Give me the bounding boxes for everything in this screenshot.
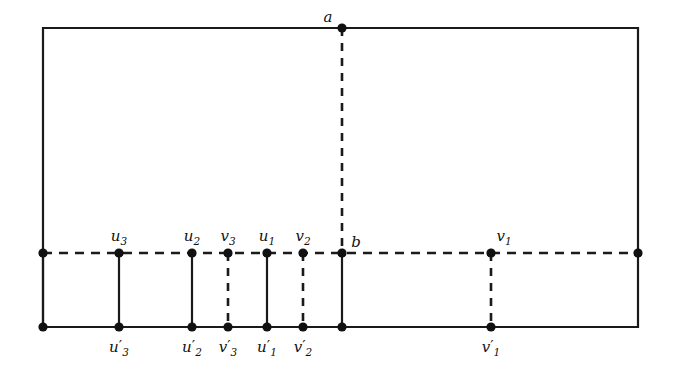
diagram-canvas: abu3u2v3u1v2v1u′3u′2v′3u′1v′2v′1 — [0, 0, 674, 375]
label-base: u — [182, 338, 192, 356]
vertex-label-u1p: u′1 — [257, 337, 277, 358]
vertex-labels-group: abu3u2v3u1v2v1u′3u′2v′3u′1v′2v′1 — [109, 8, 511, 358]
vertex-dot-b — [337, 248, 346, 257]
vertex-dot-v1p — [486, 322, 495, 331]
vertex-label-u3p: u′3 — [109, 337, 129, 358]
vertex-label-v1: v1 — [496, 227, 511, 247]
label-base: u — [109, 338, 119, 356]
label-subscript: 2 — [303, 235, 311, 247]
vertex-dot-left-mid — [38, 248, 47, 257]
vertex-dot-v3p — [223, 322, 232, 331]
vertex-dot-v3 — [223, 248, 232, 257]
outer-rectangle — [43, 28, 638, 327]
frame-group — [43, 28, 638, 327]
vertex-dot-u3p — [114, 322, 123, 331]
label-subscript: 2 — [194, 346, 202, 358]
label-subscript: 1 — [268, 235, 275, 247]
vertex-dot-u1p — [262, 322, 271, 331]
vertex-label-u2p: u′2 — [182, 337, 202, 358]
label-base: u — [257, 338, 267, 356]
label-subscript: 3 — [231, 346, 238, 358]
label-subscript: 1 — [505, 235, 512, 247]
vertex-dot-u1 — [262, 248, 271, 257]
vertex-dot-u3 — [114, 248, 123, 257]
label-subscript: 3 — [229, 235, 236, 247]
vertex-label-v2p: v′2 — [294, 337, 313, 358]
vertex-label-v1p: v′1 — [482, 337, 501, 358]
vertex-dots-group — [38, 23, 642, 331]
label-base: u — [259, 227, 269, 245]
vertex-label-u1: u1 — [259, 227, 275, 247]
vertex-dot-u2p — [187, 322, 196, 331]
vertex-dot-a — [337, 23, 346, 32]
vertex-label-v3: v3 — [220, 227, 235, 247]
vertex-dot-u2 — [187, 248, 196, 257]
label-base: u — [184, 227, 194, 245]
label-subscript: 1 — [270, 346, 277, 358]
vertex-label-u2: u2 — [184, 227, 201, 247]
label-subscript: 2 — [305, 346, 313, 358]
vertex-dot-v1 — [486, 248, 495, 257]
vertex-dot-right-mid — [633, 248, 642, 257]
figure-root: abu3u2v3u1v2v1u′3u′2v′3u′1v′2v′1 — [0, 0, 674, 375]
vertex-label-u3: u3 — [111, 227, 128, 247]
label-subscript: 1 — [494, 346, 501, 358]
vertex-dot-v2p — [298, 322, 307, 331]
vertex-label-b: b — [351, 233, 361, 251]
vertex-label-v3p: v′3 — [219, 337, 238, 358]
vertex-dot-bottom-left-corner — [38, 322, 47, 331]
vertex-label-v2: v2 — [295, 227, 310, 247]
label-subscript: 3 — [120, 235, 127, 247]
label-subscript: 3 — [122, 346, 129, 358]
vertex-label-a: a — [324, 8, 333, 26]
label-base: a — [324, 8, 333, 26]
label-subscript: 2 — [192, 235, 200, 247]
vertical-edges-group — [43, 28, 491, 327]
label-base: u — [111, 227, 121, 245]
vertex-dot-b-bottom — [337, 322, 346, 331]
label-base: b — [351, 233, 361, 251]
vertex-dot-v2 — [298, 248, 307, 257]
